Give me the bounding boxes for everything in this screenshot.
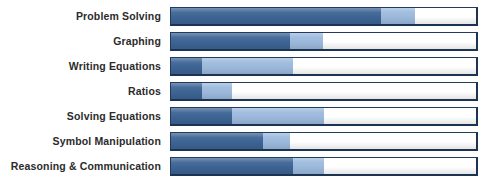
bar-segment-dark [171, 133, 263, 149]
bar-segment-medium [232, 108, 324, 124]
bar-track [170, 157, 478, 176]
bar-track [170, 82, 478, 101]
bar-track [170, 57, 478, 76]
bar-segment-medium [290, 33, 324, 49]
bar-track [170, 32, 478, 51]
chart-row: Ratios [0, 79, 478, 104]
chart-row: Solving Equations [0, 104, 478, 129]
category-label: Ratios [0, 86, 170, 98]
bar-segment-dark [171, 58, 202, 74]
horizontal-stacked-bar-chart: Problem Solving Graphing Writing Equatio… [0, 0, 491, 181]
chart-row: Problem Solving [0, 4, 478, 29]
bar-segment-medium [293, 158, 324, 174]
category-label: Problem Solving [0, 11, 170, 23]
category-label: Solving Equations [0, 111, 170, 123]
bar-segment-empty [324, 108, 477, 124]
chart-row: Symbol Manipulation [0, 129, 478, 154]
bar-track [170, 107, 478, 126]
bar-segment-empty [290, 133, 476, 149]
bar-segment-medium [263, 133, 290, 149]
bar-segment-medium [381, 8, 415, 24]
category-label: Graphing [0, 36, 170, 48]
bar-track [170, 132, 478, 151]
bar-segment-dark [171, 83, 202, 99]
bar-track [170, 7, 478, 26]
bar-segment-empty [293, 58, 476, 74]
bar-segment-dark [171, 33, 290, 49]
bar-segment-empty [415, 8, 476, 24]
bar-segment-dark [171, 8, 381, 24]
chart-row: Reasoning & Communication [0, 154, 478, 179]
category-label: Reasoning & Communication [0, 161, 170, 173]
bar-segment-medium [202, 58, 294, 74]
chart-row: Writing Equations [0, 54, 478, 79]
category-label: Writing Equations [0, 61, 170, 73]
bar-segment-dark [171, 108, 232, 124]
bar-segment-medium [202, 83, 233, 99]
chart-row: Graphing [0, 29, 478, 54]
bar-segment-empty [323, 33, 476, 49]
bar-segment-empty [232, 83, 476, 99]
bar-segment-empty [324, 158, 477, 174]
bar-segment-dark [171, 158, 293, 174]
category-label: Symbol Manipulation [0, 136, 170, 148]
